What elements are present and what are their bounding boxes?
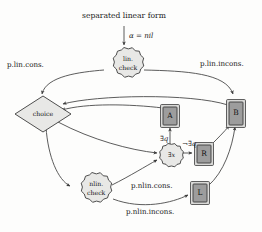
node-lin-check-label-line1: lin. — [123, 55, 133, 62]
node-lin-check[interactable]: lin. check — [113, 48, 144, 78]
node-choice[interactable]: choice — [15, 96, 71, 132]
node-lin-check-label-line2: check — [119, 64, 138, 71]
node-exists-x[interactable]: ∃x — [160, 144, 184, 167]
edge-box-a-to-choice — [62, 105, 163, 110]
node-nlin-check[interactable]: nlin. check — [81, 173, 112, 203]
node-nlin-check-label-line1: nlin. — [89, 180, 103, 187]
node-exists-x-label: ∃x — [168, 151, 175, 159]
flow-diagram: lin. check choice ∃x nlin. check A — [0, 0, 262, 232]
edge-label-alpha-nil: α = nil — [129, 31, 153, 40]
node-nlin-check-label-line2: check — [87, 189, 106, 196]
edge-lin-check-to-box-b — [144, 70, 233, 94]
edge-label-not-exists-q: ¬∃q — [182, 139, 197, 148]
edge-choice-to-nlin-check — [46, 127, 70, 186]
edge-label-p-nlin-cons: p.nlin.cons. — [131, 181, 172, 190]
edge-nlin-check-to-box-l — [113, 195, 188, 205]
node-box-r-label: R — [201, 149, 207, 158]
node-box-a[interactable]: A — [161, 105, 180, 128]
edge-label-exists-q: ∃q — [160, 134, 169, 143]
edge-label-p-nlin-incons: p.nlin.incons. — [126, 207, 174, 216]
figure-title: separated linear form — [82, 11, 166, 20]
edge-box-r-to-box-b — [211, 126, 229, 145]
edge-choice-to-exists-x — [58, 122, 157, 153]
node-choice-label: choice — [33, 110, 54, 117]
node-box-b[interactable]: B — [227, 100, 246, 128]
node-box-a-label: A — [166, 111, 173, 120]
node-box-l[interactable]: L — [191, 182, 210, 205]
diagram-canvas: lin. check choice ∃x nlin. check A — [0, 0, 262, 232]
edge-box-b-to-choice — [63, 97, 228, 105]
node-box-r[interactable]: R — [195, 143, 214, 166]
node-box-l-label: L — [198, 188, 203, 197]
edge-lin-check-to-choice — [42, 70, 104, 94]
edge-label-p-lin-incons: p.lin.incons. — [200, 59, 244, 68]
edge-label-p-lin-cons: p.lin.cons. — [7, 60, 44, 69]
node-box-b-label: B — [233, 108, 238, 117]
